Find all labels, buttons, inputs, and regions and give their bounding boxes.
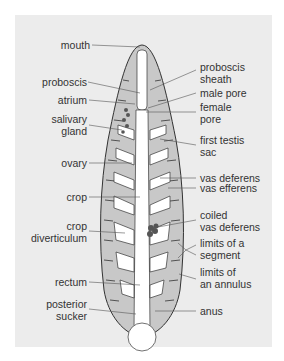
label-mouth: mouth	[61, 39, 90, 51]
label-female-pore: femalepore	[200, 101, 232, 125]
label-crop-diverticulum: cropdiverticulum	[31, 220, 87, 244]
label-atrium: atrium	[58, 94, 87, 106]
label-proboscis: proboscis	[42, 76, 87, 88]
label-first-testis-sac: first testissac	[200, 134, 244, 158]
label-limits-of-an-annulus: limits ofan annulus	[200, 266, 251, 290]
label-male-pore: male pore	[200, 87, 247, 99]
label-limits-of-a-segment: limits of asegment	[200, 237, 244, 261]
label-salivary-gland: salivarygland	[51, 113, 87, 137]
label-vas-efferens: vas efferens	[200, 182, 257, 194]
label-ovary: ovary	[61, 157, 87, 169]
label-crop: crop	[67, 191, 87, 203]
label-posterior-sucker: posteriorsucker	[46, 298, 87, 322]
label-anus: anus	[200, 305, 223, 317]
label-proboscis-sheath: proboscissheath	[200, 61, 245, 85]
label-rectum: rectum	[55, 276, 87, 288]
label-coiled-vas-deferens: coiledvas deferens	[200, 209, 260, 233]
